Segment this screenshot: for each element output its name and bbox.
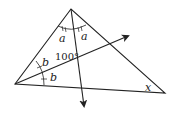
label-left-lower-b: b [50, 71, 57, 84]
geometry-diagram: a a b b 100° x [0, 0, 174, 118]
label-right-x: x [145, 81, 152, 94]
diagram-svg: a a b b 100° x [0, 0, 174, 118]
label-left-upper-b: b [42, 56, 49, 69]
label-apex-right-a: a [81, 30, 88, 43]
label-intersection-angle: 100° [55, 51, 79, 62]
label-apex-left-a: a [59, 32, 66, 45]
triangle [15, 9, 165, 93]
apex-left-tick-1 [62, 26, 63, 31]
